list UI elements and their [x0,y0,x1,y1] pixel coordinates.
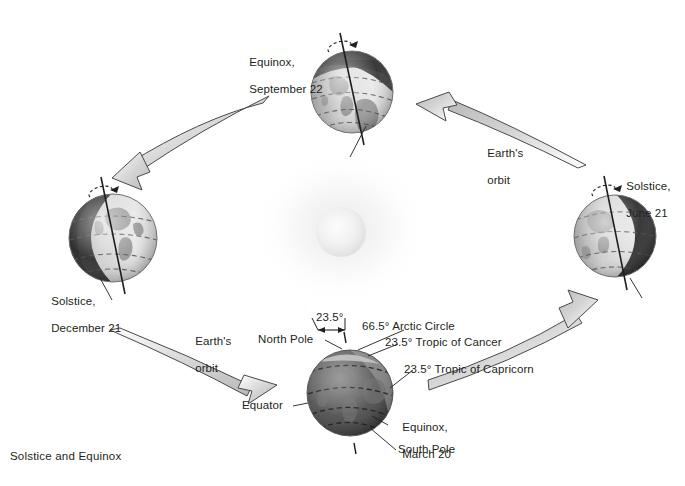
globe-march-equinox [307,318,393,454]
label-orbit-left: Earth's orbit [182,321,231,389]
label-north-pole: North Pole [258,333,313,347]
sun [251,150,431,306]
label-september-equinox-line1: Equinox, [249,56,295,68]
label-december-solstice-line1: Solstice, [51,295,95,307]
label-orbit-right-line1: Earth's [487,147,523,159]
label-march-equinox: Equinox, March 20 [389,407,451,475]
label-december-solstice: Solstice, December 21 [38,281,121,349]
label-june-solstice: Solstice, June 21 [613,166,671,234]
label-june-solstice-line1: Solstice, [626,180,670,192]
label-june-solstice-line2: June 21 [626,207,668,219]
label-orbit-right: Earth's orbit [474,133,523,201]
label-tilt-angle: 23.5° [316,311,343,325]
label-orbit-left-line2: orbit [195,362,218,374]
label-september-equinox: Equinox, September 22 [236,42,323,110]
arrow-top-left [112,96,269,190]
label-equator: Equator [242,399,283,413]
leader-north-pole [325,340,342,349]
label-south-pole: South Pole [398,443,455,457]
globe-september-equinox [311,33,393,145]
globe-december-solstice [67,177,157,294]
solstice-equinox-figure: Equinox, September 22 Solstice, June 21 … [0,0,685,486]
leader-june-solstice [630,278,642,298]
label-orbit-right-line2: orbit [487,174,510,186]
leader-equator [293,403,308,406]
label-march-equinox-line1: Equinox, [402,421,448,433]
figure-caption: Solstice and Equinox [10,450,121,462]
label-orbit-left-line1: Earth's [195,335,231,347]
label-tropic-of-capricorn: 23.5° Tropic of Capricorn [404,363,534,377]
label-september-equinox-line2: September 22 [249,83,322,95]
label-arctic-circle: 66.5° Arctic Circle [362,320,455,334]
label-december-solstice-line2: December 21 [51,322,121,334]
diagram-canvas [0,0,685,486]
label-tropic-of-cancer: 23.5° Tropic of Cancer [385,336,502,350]
